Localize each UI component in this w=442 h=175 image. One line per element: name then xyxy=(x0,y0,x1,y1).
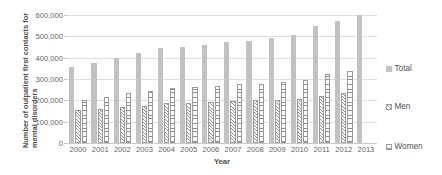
x-axis-tick-label: 2003 xyxy=(133,144,155,156)
bar-men-2011 xyxy=(319,96,324,143)
legend-label: Men xyxy=(395,102,411,111)
bar-total-2013 xyxy=(357,15,362,143)
x-axis-tick-label: 2002 xyxy=(111,144,133,156)
year-group xyxy=(111,15,133,143)
y-axis-tick-label: 400,000 xyxy=(36,53,63,62)
bar-women-2000 xyxy=(82,100,87,143)
year-group xyxy=(67,15,89,143)
bar-women-2008 xyxy=(259,84,264,143)
x-axis-tick-label: 2013 xyxy=(355,144,377,156)
bar-men-2004 xyxy=(164,103,169,143)
bar-total-2012 xyxy=(335,21,340,143)
legend: TotalMenWomen xyxy=(386,64,442,152)
bar-women-2009 xyxy=(281,82,286,143)
bar-men-2000 xyxy=(75,110,80,143)
year-group xyxy=(288,15,310,143)
legend-label: Women xyxy=(395,142,423,151)
bar-total-2001 xyxy=(91,63,96,143)
bar-men-2012 xyxy=(341,93,346,143)
bar-total-2003 xyxy=(136,53,141,143)
y-axis-tick-label: 0 xyxy=(59,139,63,148)
bar-women-2005 xyxy=(192,87,197,143)
bar-total-2007 xyxy=(224,42,229,143)
x-axis-tick-label: 2008 xyxy=(244,144,266,156)
year-group xyxy=(133,15,155,143)
legend-item-men[interactable]: Men xyxy=(386,102,410,111)
bar-men-2010 xyxy=(297,99,302,143)
legend-item-women[interactable]: Women xyxy=(386,142,423,151)
legend-swatch-icon xyxy=(386,104,392,110)
y-axis-tick-labels: 0100,000200,000300,000400,000500,000600,… xyxy=(26,0,66,152)
bar-chart: Number of outpatient first contacts for … xyxy=(0,0,442,175)
year-group xyxy=(266,15,288,143)
y-axis-tick-label: 500,000 xyxy=(36,32,63,41)
x-axis-tick-label: 2009 xyxy=(266,144,288,156)
year-group xyxy=(156,15,178,143)
bar-women-2003 xyxy=(148,91,153,143)
bar-women-2004 xyxy=(170,88,175,143)
year-group xyxy=(311,15,333,143)
legend-swatch-icon xyxy=(386,66,392,72)
x-axis-tick-label: 2007 xyxy=(222,144,244,156)
bar-women-2002 xyxy=(126,93,131,143)
x-axis-tick-label: 2012 xyxy=(333,144,355,156)
x-axis-tick-label: 2005 xyxy=(178,144,200,156)
x-axis-tick-labels: 2000200120022003200420052006200720082009… xyxy=(67,144,377,156)
bar-men-2005 xyxy=(186,103,191,143)
bar-total-2006 xyxy=(202,45,207,143)
bar-men-2003 xyxy=(142,106,147,143)
bar-men-2001 xyxy=(98,109,103,143)
bar-women-2006 xyxy=(215,86,220,143)
bar-total-2002 xyxy=(114,58,119,143)
bar-women-2010 xyxy=(303,80,308,143)
x-axis-tick-label: 2004 xyxy=(156,144,178,156)
bar-men-2002 xyxy=(120,107,125,143)
bar-women-2011 xyxy=(325,74,330,143)
bar-total-2005 xyxy=(180,47,185,143)
bar-men-2007 xyxy=(230,101,235,143)
plot-area xyxy=(67,15,377,143)
y-axis-tick-label: 200,000 xyxy=(36,96,63,105)
bar-women-2001 xyxy=(104,97,109,143)
bar-total-2000 xyxy=(69,67,74,143)
legend-swatch-icon xyxy=(386,144,392,150)
x-axis-tick-label: 2001 xyxy=(89,144,111,156)
x-axis-tick-label: 2000 xyxy=(67,144,89,156)
year-group xyxy=(178,15,200,143)
bar-men-2009 xyxy=(275,100,280,143)
bar-series-container xyxy=(67,15,377,143)
x-axis-tick-label: 2006 xyxy=(200,144,222,156)
bar-total-2010 xyxy=(291,35,296,143)
y-axis-tick-label: 600,000 xyxy=(36,11,63,20)
year-group xyxy=(222,15,244,143)
bar-women-2007 xyxy=(237,84,242,143)
year-group xyxy=(355,15,377,143)
year-group xyxy=(333,15,355,143)
bar-women-2012 xyxy=(347,71,352,143)
bar-total-2008 xyxy=(246,41,251,143)
legend-label: Total xyxy=(395,64,412,73)
x-axis-tick-label: 2011 xyxy=(311,144,333,156)
year-group xyxy=(89,15,111,143)
bar-men-2008 xyxy=(253,100,258,143)
x-axis-title: Year xyxy=(67,157,377,166)
y-axis-tick-label: 300,000 xyxy=(36,75,63,84)
y-axis-title-wrap: Number of outpatient first contacts for … xyxy=(0,0,26,150)
year-group xyxy=(244,15,266,143)
legend-item-total[interactable]: Total xyxy=(386,64,412,73)
year-group xyxy=(200,15,222,143)
bar-total-2009 xyxy=(269,38,274,143)
bar-total-2011 xyxy=(313,26,318,143)
bar-men-2006 xyxy=(208,102,213,143)
y-axis-tick-label: 100,000 xyxy=(36,117,63,126)
bar-total-2004 xyxy=(158,48,163,143)
x-axis-tick-label: 2010 xyxy=(288,144,310,156)
